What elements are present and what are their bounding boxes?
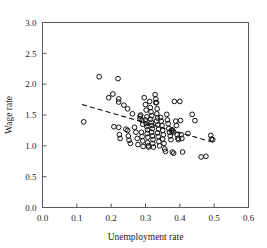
data-point — [178, 118, 183, 123]
data-point — [180, 150, 185, 155]
data-point — [111, 92, 116, 97]
data-point — [116, 125, 121, 130]
data-point — [204, 154, 209, 159]
data-point — [155, 106, 160, 111]
data-point — [122, 103, 127, 108]
data-point — [136, 142, 141, 147]
data-point — [125, 106, 130, 111]
data-point — [132, 125, 137, 130]
data-point — [116, 100, 121, 105]
data-point — [164, 112, 169, 117]
data-point — [135, 136, 140, 141]
y-tick-label-5: 2.5 — [25, 49, 37, 59]
data-point — [172, 99, 177, 104]
data-point — [112, 124, 117, 129]
y-tick-label-3: 1.5 — [25, 110, 37, 120]
data-point — [97, 74, 102, 79]
data-point — [142, 95, 147, 100]
x-tick-label-0: 0.0 — [37, 213, 49, 223]
y-tick-label-4: 2.0 — [25, 79, 37, 89]
data-point — [141, 144, 146, 149]
x-tick-label-1: 0.1 — [71, 213, 82, 223]
x-tick-label-2: 0.2 — [106, 213, 117, 223]
scatter-plot-figure: 0.00.10.20.30.40.50.60.00.51.01.52.02.53… — [0, 0, 267, 248]
data-point — [81, 119, 86, 124]
data-point — [190, 112, 195, 117]
data-point — [143, 102, 148, 107]
x-axis-title: Unemployment rate — [108, 232, 184, 242]
data-point — [106, 95, 111, 100]
chart-canvas: 0.00.10.20.30.40.50.60.00.51.01.52.02.53… — [0, 0, 267, 248]
data-point — [147, 99, 152, 104]
y-tick-label-0: 0.0 — [25, 203, 37, 213]
x-tick-label-4: 0.4 — [174, 213, 186, 223]
data-point — [170, 150, 175, 155]
data-point — [171, 151, 176, 156]
y-tick-label-2: 1.0 — [25, 141, 37, 151]
data-point — [162, 141, 167, 146]
data-point — [130, 111, 135, 116]
x-tick-label-6: 0.6 — [243, 213, 255, 223]
y-axis-title: Wage rate — [4, 96, 14, 134]
data-point — [199, 155, 204, 160]
y-tick-label-6: 3.0 — [25, 18, 37, 28]
data-points-group — [81, 74, 215, 159]
x-tick-label-5: 0.5 — [209, 213, 221, 223]
data-point — [177, 99, 182, 104]
data-point — [116, 76, 121, 81]
data-point — [134, 130, 139, 135]
y-tick-label-1: 0.5 — [25, 172, 37, 182]
data-point — [193, 118, 198, 123]
x-tick-label-3: 0.3 — [140, 213, 152, 223]
